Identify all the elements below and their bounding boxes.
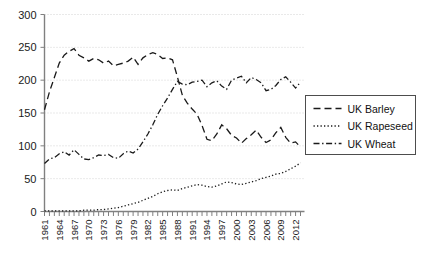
- x-tick-label: 1976: [113, 220, 124, 241]
- x-tick-label: 2006: [261, 220, 272, 241]
- legend-label-uk-barley: UK Barley: [348, 103, 396, 115]
- series-line-uk-rapeseed: [45, 163, 301, 211]
- legend-label-uk-rapeseed: UK Rapeseed: [348, 120, 414, 132]
- x-tick-label: 1982: [142, 220, 153, 241]
- x-tick-label: 1979: [128, 220, 139, 241]
- series-line-uk-barley: [45, 49, 301, 147]
- series-line-uk-wheat: [45, 76, 301, 163]
- y-tick-label: 200: [18, 74, 36, 86]
- y-tick-label: 150: [18, 107, 36, 119]
- x-tick-label: 2009: [275, 220, 286, 241]
- x-tick-label: 1997: [216, 220, 227, 241]
- chart-container: 050100150200250300 196119641967197019731…: [0, 0, 432, 263]
- x-tick-label: 1991: [187, 220, 198, 241]
- x-tick-label: 1988: [172, 220, 183, 241]
- y-tick-labels: 050100150200250300: [18, 9, 36, 218]
- x-tick-label: 1964: [54, 220, 65, 241]
- y-tick-label: 250: [18, 41, 36, 53]
- line-chart: 050100150200250300 196119641967197019731…: [0, 0, 432, 263]
- x-tick-label: 1967: [69, 220, 80, 241]
- data-series-group: [45, 49, 301, 211]
- y-tick-label: 0: [30, 206, 36, 218]
- y-tick-label: 50: [24, 173, 36, 185]
- x-tick-label: 1973: [98, 220, 109, 241]
- x-tick-label: 1961: [39, 220, 50, 241]
- y-tick-label: 300: [18, 9, 36, 21]
- chart-legend: UK BarleyUK RapeseedUK Wheat: [306, 96, 416, 155]
- x-tick-label: 1970: [83, 220, 94, 241]
- x-tick-label: 2000: [231, 220, 242, 241]
- x-tick-labels: 1961196419671970197319761979198219851988…: [39, 220, 301, 241]
- x-tick-label: 2003: [246, 220, 257, 241]
- x-tick-label: 2012: [290, 220, 301, 241]
- gridlines: [45, 15, 305, 212]
- x-tick-label: 1985: [157, 220, 168, 241]
- y-axis: [41, 15, 45, 212]
- y-tick-label: 100: [18, 140, 36, 152]
- x-axis: [45, 212, 305, 217]
- x-tick-label: 1994: [201, 220, 212, 241]
- legend-label-uk-wheat: UK Wheat: [348, 138, 396, 150]
